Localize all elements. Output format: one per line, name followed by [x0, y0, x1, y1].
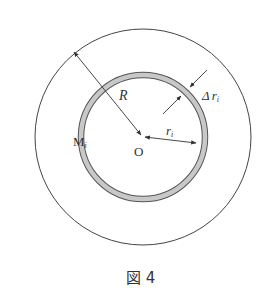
label-center-O: O	[134, 144, 143, 159]
label-Mi: Mi	[73, 134, 87, 150]
shell-ring-fill	[81, 75, 205, 199]
diagram-canvas: R Δri ri O Mi 図 4	[0, 0, 275, 302]
label-delta-ri: Δri	[201, 88, 219, 104]
delta-r-outer-arrow	[190, 70, 207, 87]
outer-circle	[35, 29, 251, 245]
label-R: R	[118, 88, 128, 103]
delta-r-inner-arrow	[163, 96, 181, 114]
figure-caption: 図 4	[126, 269, 155, 287]
label-ri: ri	[166, 123, 173, 139]
